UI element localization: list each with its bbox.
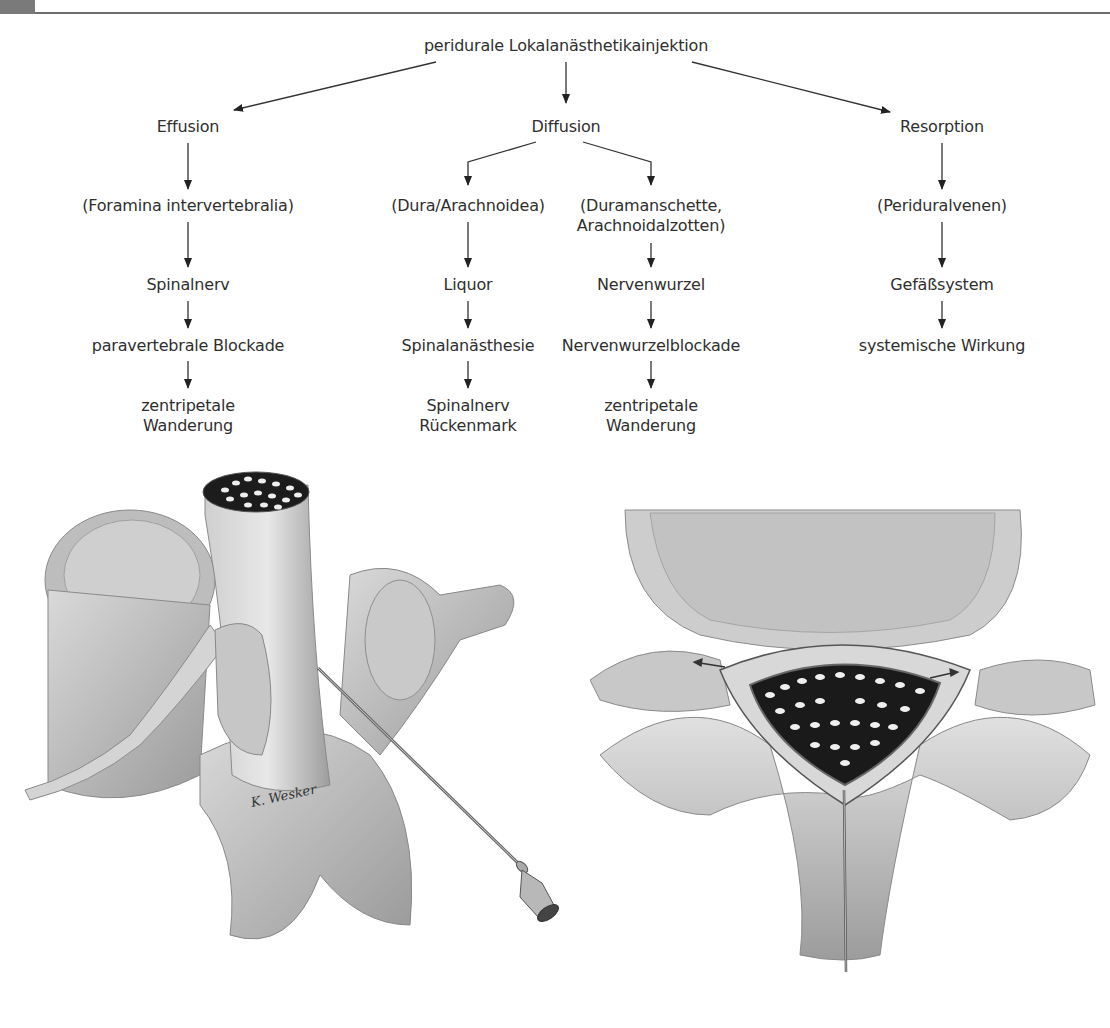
node-zentripetal-1-line2: Wanderung <box>143 416 233 436</box>
node-duramanschette-line1: (Duramanschette, <box>580 196 722 216</box>
vertebra-axial-illustration <box>590 455 1110 1028</box>
flowchart-arrows <box>0 0 1110 450</box>
node-nervenwurzelblockade: Nervenwurzelblockade <box>562 336 740 356</box>
node-duramanschette-line2: Arachnoidalzotten) <box>577 216 725 236</box>
node-periduralvenen: (Periduralvenen) <box>877 196 1007 216</box>
node-systemische-wirkung: systemische Wirkung <box>859 336 1025 356</box>
node-effusion: Effusion <box>157 117 220 137</box>
node-spinalnerv-2-line1: Spinalnerv <box>426 396 509 416</box>
node-foramina: (Foramina intervertebralia) <box>82 196 293 216</box>
node-nervenwurzel: Nervenwurzel <box>597 275 705 295</box>
flowchart: peridurale Lokalanästhetikainjektion Eff… <box>0 0 1110 450</box>
node-zentripetal-2-line2: Wanderung <box>606 416 696 436</box>
vertebra-oblique-illustration: K. Wesker <box>0 455 580 975</box>
node-diffusion: Diffusion <box>531 117 600 137</box>
node-paravertebrale-blockade: paravertebrale Blockade <box>92 336 284 356</box>
node-zentripetal-1-line1: zentripetale <box>141 396 235 416</box>
node-spinalnerv: Spinalnerv <box>146 275 229 295</box>
node-spinalnerv-2-line2: Rückenmark <box>419 416 516 436</box>
node-resorption: Resorption <box>900 117 984 137</box>
node-dura: (Dura/Arachnoidea) <box>391 196 545 216</box>
node-zentripetal-2-line1: zentripetale <box>604 396 698 416</box>
node-gefaesssystem: Gefäßsystem <box>890 275 993 295</box>
node-root: peridurale Lokalanästhetikainjektion <box>424 36 708 56</box>
node-spinalanaesthesie: Spinalanästhesie <box>402 336 535 356</box>
node-liquor: Liquor <box>444 275 493 295</box>
